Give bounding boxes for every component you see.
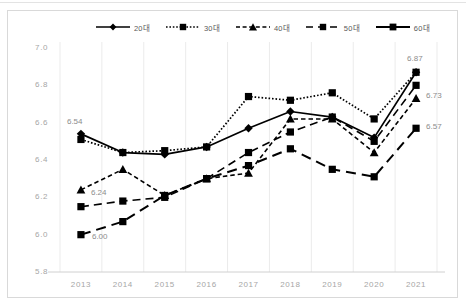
chart-series-50대 — [77, 82, 419, 211]
data-point-marker-square — [412, 82, 419, 89]
x-axis-tick-label: 2018 — [270, 280, 310, 289]
data-point-marker-triangle — [370, 148, 379, 156]
data-point-marker-triangle — [77, 185, 86, 193]
data-point-marker-square — [329, 166, 336, 173]
y-axis-tick-label: 6.4 — [22, 155, 48, 164]
x-axis-tick-label: 2014 — [103, 280, 143, 289]
data-point-marker-square — [119, 197, 126, 204]
series-line — [81, 72, 416, 154]
data-label-6.87: 6.87 — [407, 54, 423, 63]
data-point-marker-square — [412, 125, 419, 132]
series-line — [81, 85, 416, 206]
series-line — [81, 72, 416, 152]
x-axis-tick-label: 2013 — [61, 280, 101, 289]
data-point-marker-square — [203, 175, 210, 182]
data-point-marker-square — [77, 203, 84, 210]
data-point-marker-square — [371, 138, 378, 145]
data-point-marker-triangle — [286, 115, 295, 123]
data-point-marker-square — [245, 162, 252, 169]
data-point-marker-square — [329, 89, 336, 96]
y-axis-tick-label: 6.0 — [22, 230, 48, 239]
x-axis-tick-label: 2017 — [229, 280, 269, 289]
chart-series-layer — [77, 68, 421, 238]
x-axis-tick-label: 2021 — [396, 280, 436, 289]
x-axis-tick-label: 2016 — [187, 280, 227, 289]
data-point-marker-square — [287, 97, 294, 104]
data-point-marker-square — [161, 147, 168, 154]
data-point-marker-square — [203, 143, 210, 150]
data-point-marker-square — [371, 115, 378, 122]
x-axis-tick-label: 2020 — [354, 280, 394, 289]
chart-plot-area — [0, 0, 466, 306]
data-point-marker-square — [161, 192, 168, 199]
data-point-marker-square — [371, 173, 378, 180]
y-axis-tick-label: 5.8 — [22, 267, 48, 276]
data-point-marker-triangle — [118, 165, 127, 173]
chart-series-40대 — [77, 94, 421, 199]
data-point-marker-square — [329, 113, 336, 120]
data-point-marker-square — [287, 145, 294, 152]
x-axis-tick-label: 2019 — [312, 280, 352, 289]
data-point-marker-square — [412, 69, 419, 76]
data-label-6.57: 6.57 — [426, 122, 442, 131]
data-point-marker-diamond — [286, 107, 294, 115]
series-line — [81, 98, 416, 195]
data-point-marker-square — [287, 128, 294, 135]
data-point-marker-triangle — [412, 94, 421, 102]
data-point-marker-square — [119, 149, 126, 156]
y-axis-tick-label: 6.2 — [22, 192, 48, 201]
chart-series-20대 — [77, 68, 421, 159]
chart-figure: 20대 30대 40대 50대 — [0, 0, 466, 306]
data-point-marker-square — [245, 93, 252, 100]
data-label-6.54: 6.54 — [67, 117, 83, 126]
series-line — [81, 128, 416, 234]
data-label-6.00: 6.00 — [92, 232, 108, 241]
y-axis-tick-label: 6.6 — [22, 118, 48, 127]
data-label-6.24: 6.24 — [91, 188, 107, 197]
x-axis-tick-label: 2015 — [145, 280, 185, 289]
chart-series-30대 — [77, 69, 419, 156]
data-point-marker-square — [245, 149, 252, 156]
data-point-marker-square — [77, 231, 84, 238]
data-label-6.73: 6.73 — [426, 91, 442, 100]
data-point-marker-square — [119, 218, 126, 225]
data-point-marker-diamond — [244, 124, 252, 132]
data-point-marker-square — [77, 136, 84, 143]
y-axis-tick-label: 7.0 — [22, 43, 48, 52]
y-axis-tick-label: 6.8 — [22, 80, 48, 89]
chart-series-60대 — [77, 125, 419, 239]
